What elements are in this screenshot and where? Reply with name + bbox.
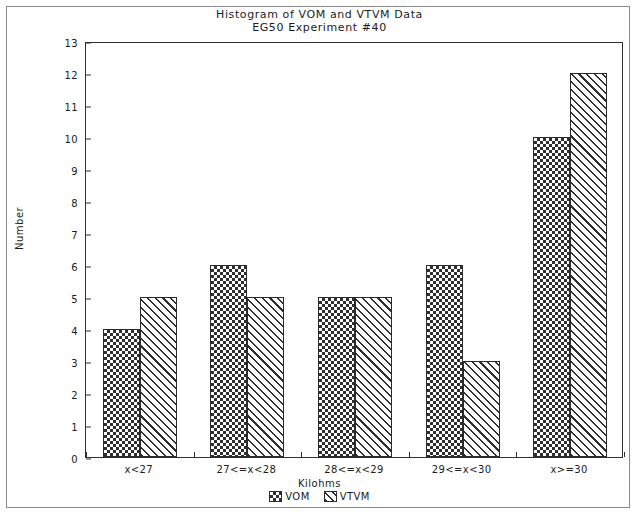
x-tick-mark [409, 452, 410, 457]
plot-area: 012345678910111213 [85, 42, 623, 458]
y-tick-label: 7 [71, 230, 78, 241]
y-tick-label: 5 [71, 294, 78, 305]
legend-swatch-vom [269, 491, 282, 502]
y-tick-mark [86, 331, 91, 332]
chart-page: Histogram of VOM and VTVM Data EG50 Expe… [0, 0, 639, 517]
y-tick-label: 2 [71, 390, 78, 401]
bar-vom-4 [533, 137, 570, 457]
plot-inner: 012345678910111213 [86, 43, 622, 457]
x-tick-mark [301, 452, 302, 457]
legend-entry-vom: VOM [269, 491, 309, 502]
x-category-label: x<27 [124, 464, 153, 475]
y-tick-label: 3 [71, 358, 78, 369]
y-tick-mark [86, 75, 91, 76]
y-tick-label: 0 [71, 454, 78, 465]
legend-label-vtvm: VTVM [340, 491, 370, 502]
bar-vtvm-2 [355, 297, 392, 457]
bar-vom-0 [103, 329, 140, 457]
x-axis-label: Kilohms [0, 478, 639, 489]
y-tick-label: 9 [71, 166, 78, 177]
chart-title: Histogram of VOM and VTVM Data [0, 8, 639, 21]
y-tick-mark [86, 363, 91, 364]
legend-entry-vtvm: VTVM [324, 491, 370, 502]
y-tick-mark [86, 107, 91, 108]
y-tick-mark [86, 427, 91, 428]
y-tick-mark [86, 267, 91, 268]
x-tick-mark [86, 452, 87, 457]
y-tick-label: 11 [64, 102, 78, 113]
x-category-label: 28<=x<29 [324, 464, 384, 475]
bar-vom-2 [318, 297, 355, 457]
bar-vom-1 [210, 265, 247, 457]
chart-legend: VOMVTVM [0, 491, 639, 502]
y-tick-mark [86, 299, 91, 300]
bar-vtvm-0 [140, 297, 177, 457]
y-tick-mark [86, 235, 91, 236]
y-tick-label: 8 [71, 198, 78, 209]
legend-label-vom: VOM [285, 491, 309, 502]
bar-vtvm-1 [247, 297, 284, 457]
chart-title-block: Histogram of VOM and VTVM Data EG50 Expe… [0, 8, 639, 34]
chart-subtitle: EG50 Experiment #40 [0, 21, 639, 34]
x-tick-mark [516, 452, 517, 457]
y-tick-mark [86, 203, 91, 204]
bar-vtvm-4 [570, 73, 607, 457]
y-tick-mark [86, 139, 91, 140]
legend-swatch-vtvm [324, 491, 337, 502]
x-category-label: x>=30 [550, 464, 587, 475]
y-tick-label: 12 [64, 70, 78, 81]
bar-vom-3 [426, 265, 463, 457]
x-tick-mark [624, 452, 625, 457]
y-tick-label: 4 [71, 326, 78, 337]
x-category-label: 27<=x<28 [217, 464, 277, 475]
bar-vtvm-3 [463, 361, 500, 457]
y-tick-label: 13 [64, 38, 78, 49]
y-tick-label: 6 [71, 262, 78, 273]
y-tick-mark [86, 395, 91, 396]
y-axis-label: Number [14, 207, 25, 250]
x-category-label: 29<=x<30 [432, 464, 492, 475]
y-tick-mark [86, 43, 91, 44]
y-tick-mark [86, 171, 91, 172]
y-tick-mark [86, 459, 91, 460]
x-tick-mark [194, 452, 195, 457]
y-tick-label: 1 [71, 422, 78, 433]
y-tick-label: 10 [64, 134, 78, 145]
